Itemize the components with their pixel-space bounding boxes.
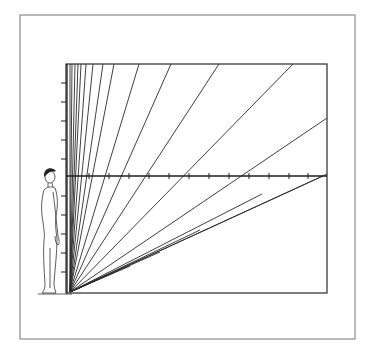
ray-line bbox=[70, 64, 103, 292]
vertical-ticks bbox=[61, 83, 66, 272]
ray-line bbox=[70, 64, 293, 292]
visual-angle-diagram bbox=[0, 0, 369, 360]
diagram-canvas bbox=[0, 0, 369, 360]
ray-line bbox=[70, 194, 262, 292]
ray-line bbox=[70, 64, 93, 292]
